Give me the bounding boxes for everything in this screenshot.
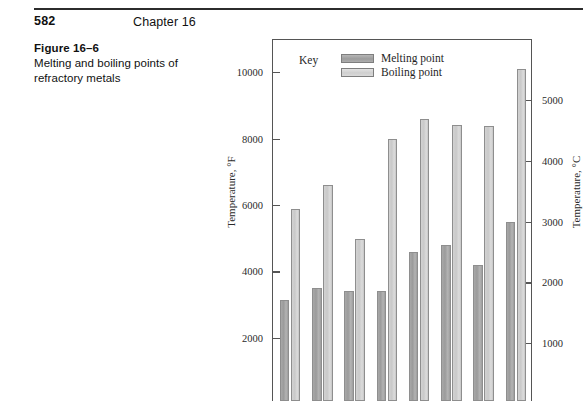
y-tick-label-right: 2000	[542, 276, 563, 289]
bar-melting-point	[280, 300, 290, 401]
figure-caption-label: Figure 16–6	[34, 42, 224, 54]
y-tick-label-right: 4000	[542, 155, 563, 168]
figure-caption: Figure 16–6 Melting and boiling points o…	[34, 42, 224, 85]
bar-melting-point	[506, 222, 516, 401]
bar-melting-point	[409, 252, 419, 401]
y-tick-label-left: 2000	[242, 332, 263, 345]
figure-chart: Temperature, °F Temperature, °C 20004000…	[223, 36, 583, 385]
plot-area: 200040006000800010000 100020003000400050…	[272, 39, 532, 401]
figure-caption-text: Melting and boiling points of refractory…	[34, 56, 224, 85]
y-axis-title-left: Temperature, °F	[225, 127, 237, 257]
legend-label-melting-point: Melting point	[381, 52, 444, 64]
bar-group	[273, 40, 531, 401]
bar-boiling-point	[452, 125, 462, 401]
y-tick-label-right: 3000	[542, 216, 563, 229]
running-head-chapter: Chapter 16	[133, 15, 196, 29]
legend-item-boiling-point: Boiling point	[341, 66, 442, 78]
y-tick-label-left: 8000	[242, 133, 263, 146]
page-number: 582	[34, 14, 55, 28]
bar-melting-point	[377, 291, 387, 401]
bar-boiling-point	[420, 119, 430, 401]
bar-melting-point	[312, 288, 322, 401]
y-tick-label-left: 4000	[242, 265, 263, 278]
y-tick-label-right: 1000	[542, 337, 563, 350]
bar-melting-point	[473, 265, 483, 401]
legend-swatch-boiling-point	[341, 68, 374, 77]
bar-boiling-point	[388, 139, 398, 401]
legend-label-boiling-point: Boiling point	[381, 66, 442, 78]
y-axis-title-right: Temperature, °C	[570, 127, 582, 257]
bar-melting-point	[441, 245, 451, 401]
bar-melting-point	[344, 291, 354, 401]
legend-key-label: Key	[299, 54, 318, 66]
legend-swatch-melting-point	[341, 54, 374, 63]
y-tick-label-left: 6000	[242, 199, 263, 212]
bar-boiling-point	[517, 69, 527, 401]
bar-boiling-point	[323, 185, 333, 401]
bar-boiling-point	[291, 209, 301, 401]
y-tick-label-left: 10000	[237, 66, 263, 79]
running-head-rule	[34, 8, 583, 10]
bar-boiling-point	[355, 239, 365, 401]
bar-boiling-point	[484, 126, 494, 401]
y-tick-label-right: 5000	[542, 94, 563, 107]
legend-item-melting-point: Melting point	[341, 52, 444, 64]
